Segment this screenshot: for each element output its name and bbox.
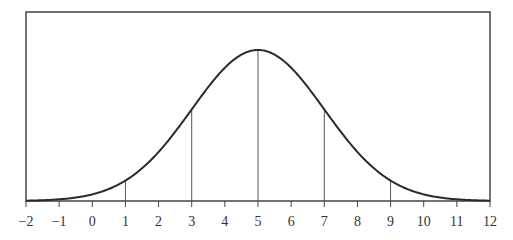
- normal-distribution-chart: −2−10123456789101112: [0, 0, 513, 240]
- x-tick-label: −2: [19, 214, 34, 229]
- x-tick-label: 6: [288, 214, 295, 229]
- x-tick-label: 10: [417, 214, 431, 229]
- x-tick-label: 0: [89, 214, 96, 229]
- x-axis: −2−10123456789101112: [19, 201, 497, 229]
- x-tick-label: −1: [52, 214, 67, 229]
- sd-lines: [125, 50, 390, 201]
- x-tick-label: 5: [255, 214, 262, 229]
- x-tick-label: 7: [321, 214, 328, 229]
- x-tick-label: 4: [221, 214, 228, 229]
- x-tick-label: 8: [354, 214, 361, 229]
- x-tick-label: 11: [450, 214, 463, 229]
- x-tick-label: 2: [155, 214, 162, 229]
- x-tick-label: 9: [387, 214, 394, 229]
- x-tick-label: 12: [483, 214, 497, 229]
- x-tick-label: 3: [188, 214, 195, 229]
- x-tick-label: 1: [122, 214, 129, 229]
